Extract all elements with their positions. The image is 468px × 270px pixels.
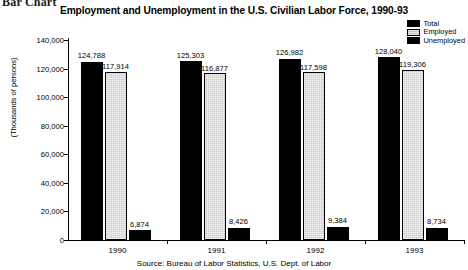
- y-axis-tick-label: 140,000: [37, 36, 64, 45]
- bar-total-1993[interactable]: 128,040: [378, 57, 400, 240]
- plot-area: 020,00040,00060,00080,000100,000120,0001…: [68, 40, 464, 240]
- bar-value-label: 116,877: [201, 64, 228, 73]
- bar-value-label: 126,982: [276, 48, 303, 57]
- y-axis-tick-label: 20,000: [41, 207, 64, 216]
- bar-total-1992[interactable]: 126,982: [279, 59, 301, 240]
- legend-swatch-icon: [407, 20, 420, 27]
- legend-item-label: Total: [424, 20, 440, 27]
- bar-value-label: 117,914: [102, 62, 129, 71]
- y-axis-tick-label: 100,000: [37, 93, 64, 102]
- bar-unemployed-1993[interactable]: 8,734: [426, 228, 448, 240]
- x-axis-label-1992: 1992: [307, 246, 325, 255]
- bar-value-label: 8,734: [427, 217, 446, 226]
- y-axis-tick-label: 60,000: [41, 150, 64, 159]
- legend-item: Unemployed: [407, 37, 466, 44]
- bar-unemployed-1990[interactable]: 6,874: [129, 230, 151, 240]
- y-axis-tick-mark: [64, 240, 68, 241]
- page-title: Employment and Unemployment in the U.S. …: [0, 5, 468, 16]
- bar-group: 124,788117,9146,874: [68, 40, 167, 240]
- legend-item: Employed: [407, 28, 466, 35]
- bar-value-label: 9,384: [328, 216, 347, 225]
- y-axis-tick-label: 80,000: [41, 121, 64, 130]
- x-axis-label-1991: 1991: [208, 246, 226, 255]
- bar-value-label: 8,426: [229, 217, 248, 226]
- legend-swatch-icon: [407, 29, 420, 36]
- legend-swatch-icon: [407, 37, 420, 44]
- legend-item: Total: [407, 20, 466, 27]
- legend-item-label: Employed: [424, 28, 457, 35]
- bar-group: 128,040119,3068,734: [365, 40, 464, 240]
- bar-total-1990[interactable]: 124,788: [81, 62, 103, 240]
- y-axis-title: (Thousands of persons): [9, 33, 18, 163]
- x-axis-tick-mark: [464, 240, 465, 244]
- source-note: Source: Bureau of Labor Statistics, U.S.…: [0, 259, 468, 268]
- legend-item-label: Unemployed: [424, 37, 466, 44]
- bar-unemployed-1991[interactable]: 8,426: [228, 228, 250, 240]
- bar-value-label: 119,306: [399, 60, 426, 69]
- bar-group: 126,982117,5989,384: [266, 40, 365, 240]
- bar-employed-1992[interactable]: 117,598: [303, 72, 325, 240]
- bar-employed-1991[interactable]: 116,877: [204, 73, 226, 240]
- x-axis-tick-mark: [167, 240, 168, 244]
- x-axis-tick-mark: [266, 240, 267, 244]
- bar-value-label: 117,598: [300, 63, 327, 72]
- bar-unemployed-1992[interactable]: 9,384: [327, 227, 349, 240]
- bar-value-label: 124,788: [78, 51, 105, 60]
- bar-employed-1993[interactable]: 119,306: [402, 70, 424, 240]
- bar-group: 125,303116,8778,426: [167, 40, 266, 240]
- x-axis-label-1993: 1993: [406, 246, 424, 255]
- x-axis-tick-mark: [365, 240, 366, 244]
- bar-value-label: 128,040: [375, 47, 402, 56]
- chart-legend: TotalEmployedUnemployed: [407, 20, 466, 44]
- y-axis-tick-label: 40,000: [41, 178, 64, 187]
- bar-value-label: 6,874: [130, 220, 149, 229]
- y-axis-tick-label: 120,000: [37, 64, 64, 73]
- x-axis-label-1990: 1990: [109, 246, 127, 255]
- bar-employed-1990[interactable]: 117,914: [105, 72, 127, 240]
- bar-value-label: 125,303: [177, 51, 204, 60]
- bar-total-1991[interactable]: 125,303: [180, 61, 202, 240]
